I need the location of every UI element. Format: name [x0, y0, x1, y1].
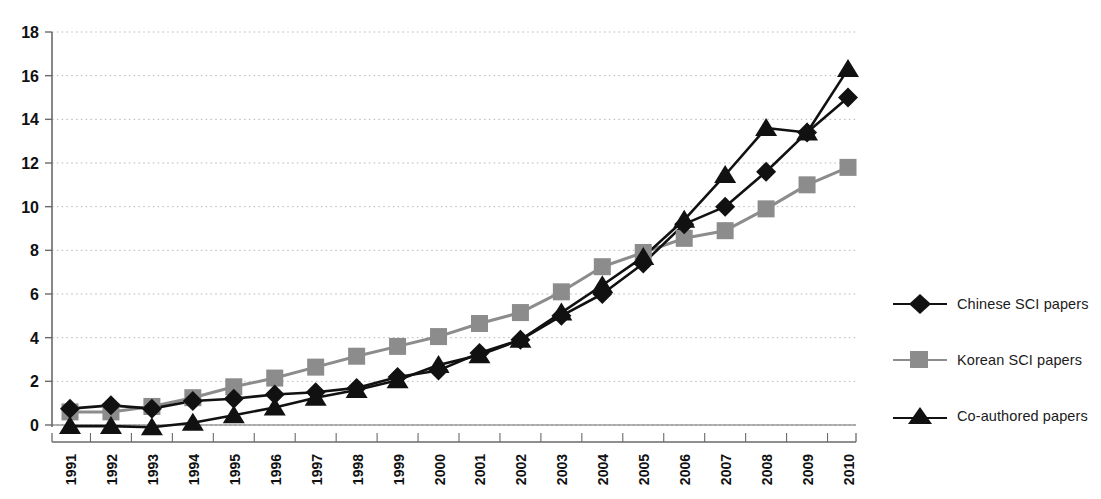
legend-label-co-authored-papers: Co-authored papers [947, 408, 1088, 424]
xtick-label-1999: 1999 [391, 454, 407, 485]
ytick-label-16: 16 [21, 68, 39, 85]
xtick-label-1997: 1997 [309, 454, 325, 485]
chart-legend: Chinese SCI papers Korean SCI papers Co-… [893, 276, 1101, 444]
legend-label-korean-sci-papers: Korean SCI papers [947, 352, 1082, 368]
xtick-label-1993: 1993 [145, 454, 161, 485]
ytick-label-2: 2 [30, 373, 39, 390]
datapoint-korean-sci-papers-2009 [799, 176, 816, 193]
datapoint-korean-sci-papers-1999 [389, 338, 406, 355]
datapoint-korean-sci-papers-2003 [553, 283, 570, 300]
xtick-label-2010: 2010 [841, 454, 857, 485]
legend-item-chinese-sci-papers[interactable]: Chinese SCI papers [893, 276, 1101, 332]
datapoint-korean-sci-papers-2008 [758, 200, 775, 217]
datapoint-korean-sci-papers-2001 [471, 315, 488, 332]
legend-label-chinese-sci-papers: Chinese SCI papers [947, 296, 1089, 312]
series-line-chinese-sci-papers [70, 98, 848, 409]
xtick-label-2001: 2001 [472, 454, 488, 485]
datapoint-korean-sci-papers-2000 [430, 328, 447, 345]
ytick-label-4: 4 [30, 330, 39, 347]
legend-item-korean-sci-papers[interactable]: Korean SCI papers [893, 332, 1101, 388]
datapoint-korean-sci-papers-1997 [307, 359, 324, 376]
datapoint-korean-sci-papers-1996 [266, 370, 283, 387]
xtick-label-2007: 2007 [718, 454, 734, 485]
ytick-label-18: 18 [21, 24, 39, 41]
ytick-label-8: 8 [30, 242, 39, 259]
ytick-label-12: 12 [21, 155, 39, 172]
xtick-label-2009: 2009 [800, 454, 816, 485]
line-chart: 0246810121416181991199219931994199519961… [0, 0, 880, 499]
ytick-label-0: 0 [30, 417, 39, 434]
datapoint-korean-sci-papers-1998 [348, 348, 365, 365]
datapoint-co-authored-papers-2008 [755, 118, 777, 136]
xtick-label-1992: 1992 [104, 454, 120, 485]
datapoint-co-authored-papers-2010 [837, 59, 859, 77]
chart-page: 0246810121416181991199219931994199519961… [0, 0, 1101, 499]
xtick-label-1991: 1991 [63, 454, 79, 485]
chart-canvas: 0246810121416181991199219931994199519961… [0, 0, 880, 499]
datapoint-korean-sci-papers-2004 [594, 258, 611, 275]
legend-marker-square [893, 349, 947, 371]
ytick-label-14: 14 [21, 111, 39, 128]
datapoint-korean-sci-papers-2010 [840, 159, 857, 176]
ytick-label-6: 6 [30, 286, 39, 303]
xtick-label-2000: 2000 [432, 454, 448, 485]
xtick-label-2004: 2004 [595, 454, 611, 485]
xtick-label-2006: 2006 [677, 454, 693, 485]
xtick-label-2003: 2003 [554, 454, 570, 485]
xtick-label-1998: 1998 [350, 454, 366, 485]
ytick-label-10: 10 [21, 199, 39, 216]
xtick-label-1995: 1995 [227, 454, 243, 485]
series-line-co-authored-papers [70, 69, 848, 427]
xtick-label-1996: 1996 [268, 454, 284, 485]
datapoint-korean-sci-papers-2007 [717, 222, 734, 239]
xtick-label-1994: 1994 [186, 454, 202, 485]
xtick-label-2005: 2005 [636, 454, 652, 485]
xtick-label-2002: 2002 [513, 454, 529, 485]
legend-marker-diamond [893, 293, 947, 315]
legend-marker-triangle [893, 405, 947, 427]
datapoint-co-authored-papers-2004 [591, 275, 613, 293]
xtick-label-2008: 2008 [759, 454, 775, 485]
datapoint-korean-sci-papers-2002 [512, 304, 529, 321]
legend-item-co-authored-papers[interactable]: Co-authored papers [893, 388, 1101, 444]
